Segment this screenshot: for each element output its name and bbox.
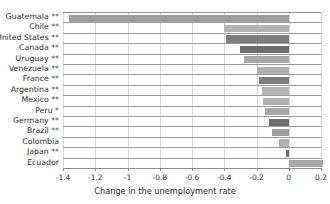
x-axis-tick [192, 168, 193, 171]
x-axis-tick [63, 168, 64, 171]
bar [257, 67, 289, 74]
bar [265, 108, 288, 115]
y-axis-label: Japan ** [27, 147, 59, 157]
bar-row [63, 96, 321, 106]
y-axis-label: United States ** [0, 33, 59, 43]
plot-area [63, 12, 321, 168]
bar [244, 56, 289, 63]
chart-container: Guatemala **Chile **United States **Cana… [0, 0, 330, 204]
x-axis-tick [289, 168, 290, 171]
bar-row [63, 23, 321, 33]
bar-row [63, 148, 321, 158]
x-axis-title: Change in the unemployment rate [0, 186, 330, 196]
bar-row [63, 138, 321, 148]
y-axis-label: Ecuador [27, 158, 59, 168]
x-axis-tick-label: -0.6 [185, 173, 200, 182]
y-axis-label: Argentina ** [11, 85, 59, 95]
x-axis-tick [160, 168, 161, 171]
y-axis-label: Peru * [35, 106, 59, 116]
bar-row [63, 107, 321, 117]
grid-line [321, 13, 322, 168]
x-axis-tick-label: 0 [286, 173, 291, 182]
y-axis-label: Guatemala ** [6, 12, 59, 22]
bar-row [63, 55, 321, 65]
y-axis-label: Canada ** [19, 43, 59, 53]
x-axis-tick [95, 168, 96, 171]
y-axis-label: France ** [23, 74, 59, 84]
x-axis-tick-label: -1 [124, 173, 131, 182]
bar [259, 77, 289, 84]
bar [269, 119, 288, 126]
bar [226, 35, 289, 42]
x-axis-tick-label: 0.2 [315, 173, 327, 182]
bar-row [63, 75, 321, 85]
bar-row [63, 86, 321, 96]
y-axis-category-labels: Guatemala **Chile **United States **Cana… [0, 12, 59, 168]
bar [289, 160, 323, 167]
y-axis-label: Uruguay ** [16, 54, 59, 64]
bar [69, 15, 288, 22]
x-axis-tick [224, 168, 225, 171]
y-axis-label: Chile ** [29, 22, 59, 32]
x-axis-tick-label: -0.4 [217, 173, 232, 182]
bar-row [63, 34, 321, 44]
x-axis-tick-label: -0.8 [152, 173, 167, 182]
y-axis-label: Venezuela ** [9, 64, 59, 74]
x-axis-tick-label: -1.2 [88, 173, 103, 182]
bar-row [63, 117, 321, 127]
x-axis-tick-label: -0.2 [249, 173, 264, 182]
y-axis-label: Germany ** [13, 116, 59, 126]
bar-row [63, 44, 321, 54]
bar [279, 139, 289, 146]
y-axis-label: Mexico ** [22, 95, 60, 105]
x-axis-tick [128, 168, 129, 171]
x-axis-tick [257, 168, 258, 171]
bar [286, 150, 289, 157]
bar [272, 129, 289, 136]
bar [240, 46, 289, 53]
clipped-title-text [0, 0, 330, 6]
x-axis-line: -1.4-1.2-1-0.8-0.6-0.4-0.200.2 [63, 168, 321, 169]
bar-row [63, 65, 321, 75]
bar [224, 25, 289, 32]
x-axis-tick [321, 168, 322, 171]
y-axis-label: Colombia [22, 137, 59, 147]
bar-row [63, 127, 321, 137]
bar [262, 87, 289, 94]
y-axis-label: Brazil ** [27, 126, 59, 136]
bar-row [63, 13, 321, 23]
bar [263, 98, 289, 105]
x-axis-tick-label: -1.4 [56, 173, 71, 182]
